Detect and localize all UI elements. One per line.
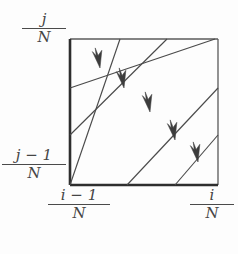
flow-arrowhead <box>88 46 110 68</box>
x-axis-right-label: i N <box>190 188 234 222</box>
flow-arrowhead <box>138 90 160 112</box>
flow-arrowhead <box>163 118 185 140</box>
flow-line <box>175 135 218 185</box>
flow-line <box>70 39 215 88</box>
flow-arrowhead <box>112 66 134 88</box>
figure-canvas: j N j − 1 N i − 1 N i N <box>0 0 238 254</box>
fraction-denominator: N <box>203 205 220 221</box>
fraction-numerator: i <box>208 188 217 204</box>
x-axis-left-label: i − 1 N <box>48 188 110 222</box>
fraction-denominator: N <box>70 205 87 221</box>
flow-line <box>127 88 218 185</box>
y-axis-bottom-label: j − 1 N <box>2 148 66 182</box>
flow-line <box>70 39 167 135</box>
fraction-denominator: N <box>35 29 52 45</box>
y-axis-top-label: j N <box>22 12 66 46</box>
fraction-numerator: j <box>40 12 49 28</box>
fraction-denominator: N <box>25 165 42 181</box>
flow-arrow-group <box>88 46 208 162</box>
flow-line <box>70 39 120 185</box>
flow-line-group <box>70 39 218 185</box>
fraction-numerator: i − 1 <box>59 188 99 204</box>
fraction-numerator: j − 1 <box>14 148 54 164</box>
